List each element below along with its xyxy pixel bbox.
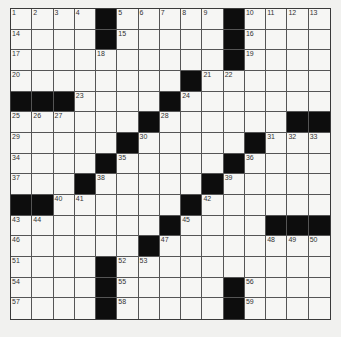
grid-cell[interactable] — [139, 71, 160, 92]
grid-cell[interactable] — [54, 50, 75, 71]
grid-cell[interactable] — [309, 174, 330, 195]
grid-cell[interactable] — [245, 92, 266, 113]
grid-cell[interactable]: 57 — [11, 298, 32, 319]
grid-cell[interactable] — [309, 154, 330, 175]
grid-cell[interactable] — [75, 30, 96, 51]
grid-cell[interactable]: 48 — [266, 236, 287, 257]
grid-cell[interactable]: 11 — [266, 9, 287, 30]
grid-cell[interactable]: 54 — [11, 278, 32, 299]
grid-cell[interactable] — [202, 30, 223, 51]
grid-cell[interactable]: 17 — [11, 50, 32, 71]
grid-cell[interactable] — [75, 257, 96, 278]
grid-cell[interactable] — [181, 50, 202, 71]
grid-cell[interactable] — [139, 174, 160, 195]
grid-cell[interactable] — [117, 50, 138, 71]
grid-cell[interactable] — [160, 257, 181, 278]
grid-cell[interactable]: 9 — [202, 9, 223, 30]
grid-cell[interactable] — [202, 92, 223, 113]
grid-cell[interactable]: 46 — [11, 236, 32, 257]
grid-cell[interactable] — [32, 278, 53, 299]
grid-cell[interactable] — [245, 112, 266, 133]
grid-cell[interactable] — [309, 257, 330, 278]
grid-cell[interactable] — [32, 174, 53, 195]
grid-cell[interactable] — [287, 278, 308, 299]
grid-cell[interactable]: 37 — [11, 174, 32, 195]
grid-cell[interactable]: 23 — [75, 92, 96, 113]
grid-cell[interactable] — [309, 30, 330, 51]
grid-cell[interactable]: 1 — [11, 9, 32, 30]
grid-cell[interactable]: 33 — [309, 133, 330, 154]
grid-cell[interactable] — [96, 133, 117, 154]
grid-cell[interactable] — [32, 71, 53, 92]
grid-cell[interactable] — [96, 92, 117, 113]
grid-cell[interactable] — [139, 92, 160, 113]
grid-cell[interactable]: 59 — [245, 298, 266, 319]
grid-cell[interactable] — [245, 174, 266, 195]
grid-cell[interactable] — [245, 216, 266, 237]
grid-cell[interactable] — [224, 216, 245, 237]
grid-cell[interactable]: 30 — [139, 133, 160, 154]
grid-cell[interactable] — [245, 71, 266, 92]
grid-cell[interactable] — [266, 30, 287, 51]
grid-cell[interactable] — [309, 298, 330, 319]
grid-cell[interactable] — [266, 50, 287, 71]
grid-cell[interactable]: 47 — [160, 236, 181, 257]
grid-cell[interactable] — [160, 278, 181, 299]
grid-cell[interactable] — [202, 50, 223, 71]
grid-cell[interactable]: 14 — [11, 30, 32, 51]
grid-cell[interactable] — [139, 50, 160, 71]
grid-cell[interactable]: 4 — [75, 9, 96, 30]
grid-cell[interactable] — [181, 154, 202, 175]
grid-cell[interactable] — [54, 278, 75, 299]
grid-cell[interactable] — [117, 71, 138, 92]
grid-cell[interactable] — [54, 30, 75, 51]
grid-cell[interactable] — [181, 112, 202, 133]
grid-cell[interactable]: 43 — [11, 216, 32, 237]
grid-cell[interactable] — [181, 236, 202, 257]
grid-cell[interactable] — [266, 71, 287, 92]
grid-cell[interactable] — [160, 71, 181, 92]
grid-cell[interactable] — [160, 30, 181, 51]
grid-cell[interactable] — [117, 112, 138, 133]
grid-cell[interactable] — [202, 257, 223, 278]
grid-cell[interactable]: 35 — [117, 154, 138, 175]
grid-cell[interactable] — [75, 216, 96, 237]
grid-cell[interactable] — [54, 71, 75, 92]
grid-cell[interactable] — [202, 236, 223, 257]
grid-cell[interactable] — [309, 71, 330, 92]
grid-cell[interactable] — [54, 133, 75, 154]
grid-cell[interactable]: 40 — [54, 195, 75, 216]
grid-cell[interactable] — [75, 236, 96, 257]
grid-cell[interactable]: 52 — [117, 257, 138, 278]
grid-cell[interactable] — [54, 174, 75, 195]
grid-cell[interactable] — [287, 71, 308, 92]
grid-cell[interactable] — [139, 195, 160, 216]
grid-cell[interactable] — [75, 112, 96, 133]
grid-cell[interactable]: 36 — [245, 154, 266, 175]
grid-cell[interactable] — [117, 236, 138, 257]
grid-cell[interactable] — [96, 236, 117, 257]
grid-cell[interactable] — [266, 298, 287, 319]
grid-cell[interactable] — [266, 174, 287, 195]
grid-cell[interactable] — [181, 30, 202, 51]
grid-cell[interactable] — [181, 133, 202, 154]
grid-cell[interactable] — [54, 216, 75, 237]
grid-cell[interactable] — [202, 154, 223, 175]
grid-cell[interactable] — [266, 112, 287, 133]
grid-cell[interactable] — [309, 92, 330, 113]
grid-cell[interactable] — [224, 257, 245, 278]
grid-cell[interactable] — [32, 257, 53, 278]
grid-cell[interactable] — [287, 92, 308, 113]
grid-cell[interactable] — [181, 174, 202, 195]
grid-cell[interactable] — [309, 195, 330, 216]
grid-cell[interactable]: 27 — [54, 112, 75, 133]
grid-cell[interactable] — [32, 133, 53, 154]
grid-cell[interactable] — [202, 112, 223, 133]
grid-cell[interactable] — [117, 195, 138, 216]
grid-cell[interactable] — [202, 216, 223, 237]
grid-cell[interactable] — [75, 133, 96, 154]
grid-cell[interactable]: 58 — [117, 298, 138, 319]
grid-cell[interactable]: 56 — [245, 278, 266, 299]
grid-cell[interactable] — [117, 174, 138, 195]
grid-cell[interactable]: 53 — [139, 257, 160, 278]
